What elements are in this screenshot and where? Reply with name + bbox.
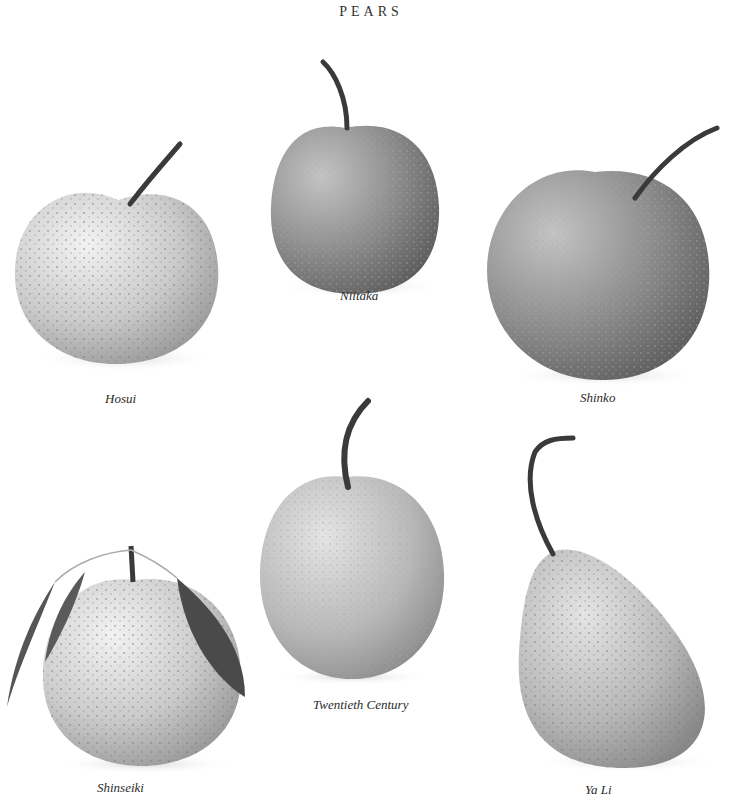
pear-twentieth-century-illustration xyxy=(258,395,448,685)
pear-hosui: Hosui xyxy=(10,138,225,378)
caption-shinko: Shinko xyxy=(580,390,615,406)
pear-hosui-illustration xyxy=(10,138,225,378)
caption-shinseiki: Shinseiki xyxy=(97,780,144,796)
caption-niitaka: Niitaka xyxy=(340,288,378,304)
page-title: PEARS xyxy=(0,4,742,20)
pear-ya-li: Ya Li xyxy=(515,432,730,808)
pear-shinko: Shinko xyxy=(485,120,725,395)
caption-twentieth-century: Twentieth Century xyxy=(313,697,408,713)
pear-ya-li-illustration xyxy=(515,432,730,772)
pear-niitaka-illustration xyxy=(265,58,445,298)
pear-twentieth-century: Twentieth Century xyxy=(258,395,448,725)
pear-shinseiki: Shinseiki xyxy=(5,542,250,808)
caption-ya-li: Ya Li xyxy=(585,782,612,798)
pear-shinseiki-illustration xyxy=(5,542,250,772)
pear-niitaka: Niitaka xyxy=(265,58,445,308)
caption-hosui: Hosui xyxy=(105,391,136,407)
pear-shinko-illustration xyxy=(485,120,725,385)
